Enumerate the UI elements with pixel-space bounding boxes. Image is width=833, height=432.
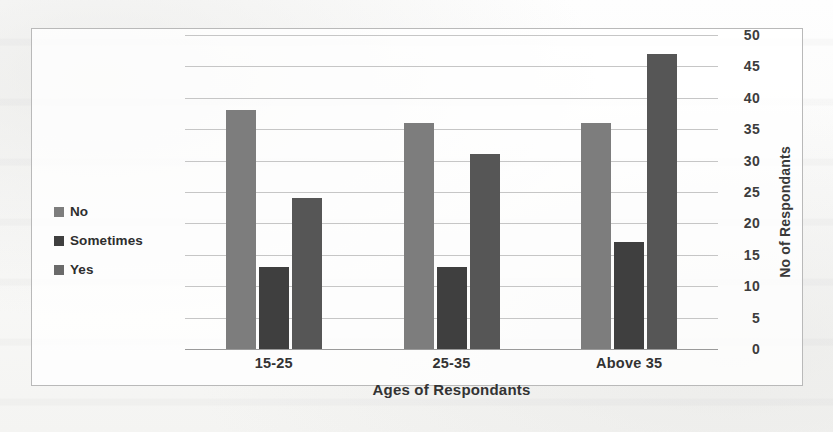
- x-axis-category-label: 25-35: [432, 355, 470, 371]
- bar-group: [581, 35, 677, 349]
- axis-baseline: [185, 349, 718, 350]
- legend-item-label: No: [70, 204, 88, 219]
- legend-swatch-icon: [54, 207, 64, 217]
- y-axis-tick-labels: 50454035302520151050: [726, 35, 768, 349]
- y-axis-tick-label: 0: [752, 341, 760, 357]
- legend-item-label: Sometimes: [70, 233, 143, 248]
- y-axis-tick-label: 35: [744, 121, 760, 137]
- y-axis-tick-label: 30: [744, 153, 760, 169]
- bar-no-25-35[interactable]: [404, 123, 434, 349]
- bar-sometimes-above-35[interactable]: [614, 242, 644, 349]
- legend-swatch-icon: [54, 236, 64, 246]
- y-axis-tick-label: 20: [744, 215, 760, 231]
- legend-swatch-icon: [54, 265, 64, 275]
- x-axis-category-label: 15-25: [255, 355, 293, 371]
- bar-sometimes-25-35[interactable]: [437, 267, 467, 349]
- legend-item-yes[interactable]: Yes: [54, 255, 174, 284]
- y-axis-tick-label: 5: [752, 310, 760, 326]
- y-axis-title-text: No of Respondants: [777, 146, 793, 278]
- bar-no-above-35[interactable]: [581, 123, 611, 349]
- plot-area: [185, 35, 718, 349]
- bar-yes-above-35[interactable]: [647, 54, 677, 349]
- chart-legend: NoSometimesYes: [54, 197, 174, 284]
- y-axis-tick-label: 45: [744, 58, 760, 74]
- bar-yes-15-25[interactable]: [292, 198, 322, 349]
- y-axis-tick-label: 25: [744, 184, 760, 200]
- y-axis-title: No of Respondants: [774, 117, 796, 307]
- bar-group: [404, 35, 500, 349]
- y-axis-tick-label: 50: [744, 27, 760, 43]
- legend-item-sometimes[interactable]: Sometimes: [54, 226, 174, 255]
- x-axis-category-label: Above 35: [596, 355, 662, 371]
- bar-no-15-25[interactable]: [226, 110, 256, 349]
- y-axis-tick-label: 15: [744, 247, 760, 263]
- legend-item-no[interactable]: No: [54, 197, 174, 226]
- bar-yes-25-35[interactable]: [470, 154, 500, 349]
- chart-frame: 50454035302520151050 No of Respondants A…: [31, 28, 803, 386]
- bar-group: [226, 35, 322, 349]
- y-axis-tick-label: 40: [744, 90, 760, 106]
- legend-item-label: Yes: [70, 262, 94, 277]
- bar-sometimes-15-25[interactable]: [259, 267, 289, 349]
- y-axis-tick-label: 10: [744, 278, 760, 294]
- x-axis-title: Ages of Respondants: [185, 381, 718, 398]
